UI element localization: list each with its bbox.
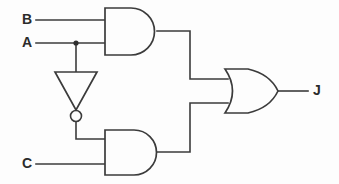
input-label-a: A <box>22 34 32 50</box>
wire-junction-a <box>73 40 78 45</box>
wire-and2-to-or <box>157 103 228 152</box>
inverter-gate <box>55 72 97 110</box>
wire-and1-to-or <box>157 31 228 79</box>
inverter-bubble-icon <box>71 111 82 122</box>
and-gate-bottom <box>105 130 157 175</box>
logic-circuit-diagram: B A C J <box>0 0 339 184</box>
or-gate <box>225 69 278 113</box>
and-gate-top <box>105 8 155 55</box>
input-label-c: C <box>22 155 32 171</box>
wire-inverter-to-and2 <box>76 122 105 139</box>
output-label-j: J <box>313 82 321 98</box>
circuit-canvas: B A C J <box>0 0 339 184</box>
input-label-b: B <box>22 11 32 27</box>
